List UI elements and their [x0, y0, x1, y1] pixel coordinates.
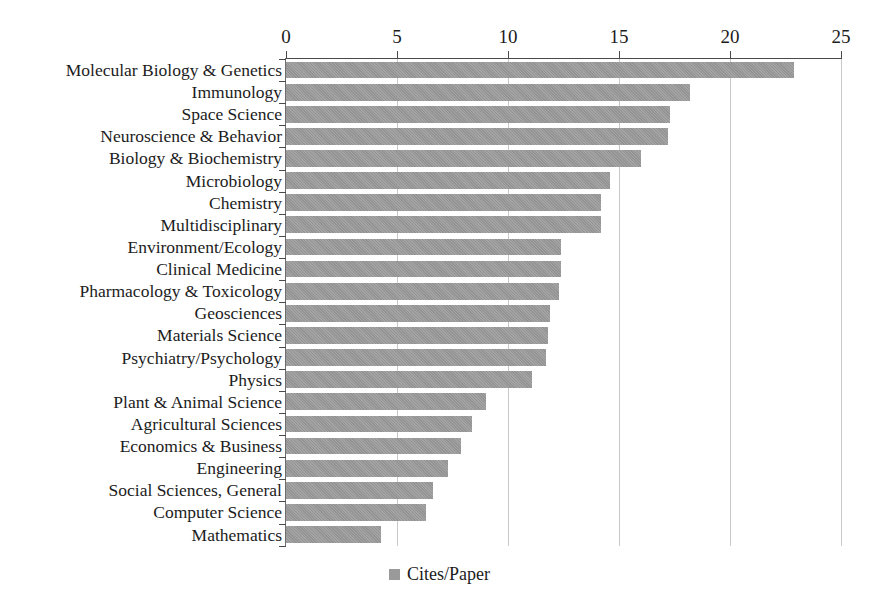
- bar: [286, 283, 559, 300]
- category-label: Social Sciences, General: [12, 479, 282, 501]
- x-tick-5: [397, 51, 398, 59]
- x-tick-25: [841, 51, 842, 59]
- category-label: Physics: [12, 369, 282, 391]
- bar: [286, 305, 550, 322]
- x-tick-10: [508, 51, 509, 59]
- x-tick-0: [286, 51, 287, 59]
- bar-row: Multidisciplinary: [0, 214, 879, 236]
- y-tick: [279, 324, 286, 325]
- category-label: Molecular Biology & Genetics: [12, 59, 282, 81]
- y-tick: [279, 501, 286, 502]
- bar: [286, 393, 486, 410]
- y-tick: [279, 59, 286, 60]
- x-tick-label-5: 5: [372, 26, 422, 48]
- bar-row: Microbiology: [0, 170, 879, 192]
- category-label: Agricultural Sciences: [12, 413, 282, 435]
- bar-row: Mathematics: [0, 524, 879, 546]
- y-tick: [279, 524, 286, 525]
- bar-row: Pharmacology & Toxicology: [0, 280, 879, 302]
- bar: [286, 62, 794, 79]
- y-tick: [279, 192, 286, 193]
- x-tick-label-25: 25: [816, 26, 866, 48]
- y-tick: [279, 479, 286, 480]
- category-label: Multidisciplinary: [12, 214, 282, 236]
- bar-row: Economics & Business: [0, 435, 879, 457]
- bar: [286, 128, 668, 145]
- y-tick: [279, 413, 286, 414]
- y-tick: [279, 457, 286, 458]
- bar: [286, 216, 601, 233]
- bar: [286, 172, 610, 189]
- bar-row: Biology & Biochemistry: [0, 147, 879, 169]
- bar-row: Environment/Ecology: [0, 236, 879, 258]
- y-tick: [279, 258, 286, 259]
- y-tick: [279, 546, 286, 547]
- y-tick: [279, 170, 286, 171]
- category-label: Microbiology: [12, 170, 282, 192]
- category-label: Engineering: [12, 457, 282, 479]
- y-tick: [279, 147, 286, 148]
- x-tick-label-10: 10: [483, 26, 533, 48]
- bar: [286, 349, 546, 366]
- category-label: Pharmacology & Toxicology: [12, 280, 282, 302]
- category-label: Mathematics: [12, 524, 282, 546]
- bar-row: Space Science: [0, 103, 879, 125]
- x-tick-label-20: 20: [705, 26, 755, 48]
- category-label: Chemistry: [12, 192, 282, 214]
- bar: [286, 416, 472, 433]
- bar: [286, 526, 381, 543]
- bar-row: Immunology: [0, 81, 879, 103]
- category-label: Clinical Medicine: [12, 258, 282, 280]
- category-label: Geosciences: [12, 302, 282, 324]
- x-tick-15: [619, 51, 620, 59]
- y-tick: [279, 214, 286, 215]
- bar: [286, 150, 641, 167]
- bar-row: Geosciences: [0, 302, 879, 324]
- y-tick: [279, 435, 286, 436]
- bar-row: Engineering: [0, 457, 879, 479]
- y-tick: [279, 81, 286, 82]
- bar: [286, 239, 561, 256]
- y-tick: [279, 302, 286, 303]
- bar: [286, 460, 448, 477]
- category-label: Immunology: [12, 81, 282, 103]
- legend-entry-label: Cites/Paper: [407, 563, 490, 585]
- y-tick: [279, 103, 286, 104]
- category-label: Neuroscience & Behavior: [12, 125, 282, 147]
- legend-entry-cites-per-paper: Cites/Paper: [389, 563, 490, 585]
- bar: [286, 504, 426, 521]
- bar: [286, 261, 561, 278]
- x-tick-label-0: 0: [261, 26, 311, 48]
- bar: [286, 106, 670, 123]
- category-label: Economics & Business: [12, 435, 282, 457]
- y-tick: [279, 236, 286, 237]
- x-tick-label-15: 15: [594, 26, 644, 48]
- y-tick: [279, 391, 286, 392]
- bar-row: Materials Science: [0, 324, 879, 346]
- category-label: Materials Science: [12, 324, 282, 346]
- bar-row: Chemistry: [0, 192, 879, 214]
- bar: [286, 194, 601, 211]
- bar: [286, 84, 690, 101]
- category-label: Psychiatry/Psychology: [12, 347, 282, 369]
- x-tick-20: [730, 51, 731, 59]
- y-tick: [279, 280, 286, 281]
- bar: [286, 482, 433, 499]
- bar: [286, 438, 461, 455]
- legend-swatch-icon: [389, 569, 400, 580]
- bar-row: Physics: [0, 369, 879, 391]
- category-label: Environment/Ecology: [12, 236, 282, 258]
- chart-legend: Cites/Paper: [0, 562, 879, 585]
- y-tick: [279, 125, 286, 126]
- bar-chart: 0510152025 Molecular Biology & GeneticsI…: [0, 0, 879, 602]
- category-label: Plant & Animal Science: [12, 391, 282, 413]
- category-label: Biology & Biochemistry: [12, 147, 282, 169]
- bar-row: Molecular Biology & Genetics: [0, 59, 879, 81]
- bar-row: Plant & Animal Science: [0, 391, 879, 413]
- bar: [286, 371, 532, 388]
- bar-row: Agricultural Sciences: [0, 413, 879, 435]
- category-label: Space Science: [12, 103, 282, 125]
- bar-row: Neuroscience & Behavior: [0, 125, 879, 147]
- category-label: Computer Science: [12, 501, 282, 523]
- y-tick: [279, 369, 286, 370]
